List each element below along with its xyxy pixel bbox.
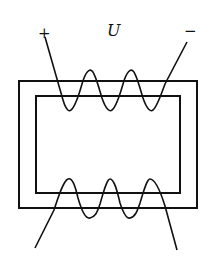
negative-terminal-label: − (184, 22, 197, 40)
positive-terminal-label: + (38, 24, 51, 42)
transformer-diagram: + U − (0, 0, 217, 261)
primary-winding (45, 37, 187, 111)
voltage-label: U (107, 21, 121, 40)
core-outer-rect (19, 81, 197, 208)
secondary-winding (35, 179, 177, 250)
core-inner-rect (36, 96, 180, 193)
